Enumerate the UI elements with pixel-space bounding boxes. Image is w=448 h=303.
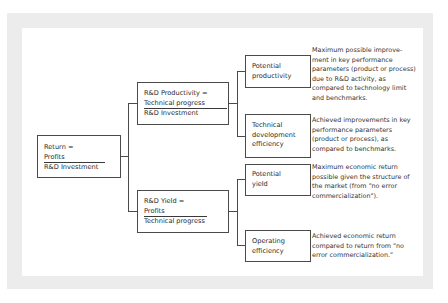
potential-productivity-box: Potential productivity [245,55,311,88]
leaf-label-line: productivity [252,72,304,82]
description-line: Achieved economic return [312,232,430,242]
leaf-label-line: efficiency [252,140,304,150]
connector [128,103,137,104]
technical-development-efficiency-description: Achieved improvements in key performance… [312,116,430,154]
rd-yield-denominator: Technical progress [144,217,222,227]
leaf-label-line: yield [252,180,304,190]
connector [237,136,245,137]
connector [128,211,137,212]
operating-efficiency-box: Operating efficiency [245,230,311,262]
description-line: and benchmarks. [312,94,430,104]
description-line: possible given the structure of [312,173,430,183]
rd-productivity-numerator: Technical progress [144,99,227,110]
description-line: Maximum possible improve- [312,46,430,56]
description-line: (product or process), as [312,135,430,145]
leaf-label-line: Operating [252,237,304,247]
description-line: commercialization"). [312,192,430,202]
description-line: error commercialization." [312,251,430,261]
description-line: Maximum economic return [312,163,430,173]
technical-development-efficiency-box: Technical development efficiency [245,114,311,158]
potential-yield-box: Potential yield [245,164,311,196]
return-numerator: Profits [44,153,105,164]
description-line: compared to return from "no [312,242,430,252]
potential-yield-description: Maximum economic return possible given t… [312,163,430,201]
rd-productivity-denominator: R&D Investment [144,109,222,119]
description-line: Achieved improvements in key [312,116,430,126]
rd-productivity-box: R&D Productivity = Technical progress R&… [137,82,229,125]
description-line: compared to benchmarks. [312,145,430,155]
return-box: Return = Profits R&D Investment [37,135,121,178]
description-line: ment in key performance [312,56,430,66]
return-denominator: R&D Investment [44,163,114,173]
description-line: compared to technology limit [312,84,430,94]
description-line: performance parameters [312,126,430,136]
description-line: the market (from "no error [312,182,430,192]
operating-efficiency-description: Achieved economic return compared to ret… [312,232,430,261]
leaf-label-line: Potential [252,170,304,180]
connector [237,179,245,180]
rd-yield-box: R&D Yield = Profits Technical progress [137,190,229,233]
leaf-label-line: development [252,131,304,141]
rd-productivity-title: R&D Productivity = [144,89,222,99]
leaf-label-line: Potential [252,62,304,72]
potential-productivity-description: Maximum possible improve- ment in key pe… [312,46,430,104]
connector [237,71,245,72]
rd-yield-title: R&D Yield = [144,197,222,207]
connector [237,71,238,137]
connector [237,179,238,246]
description-line: due to R&D activity, as [312,75,430,85]
leaf-label-line: Technical [252,121,304,131]
rd-yield-numerator: Profits [144,207,207,218]
leaf-label-line: efficiency [252,247,304,257]
return-title: Return = [44,143,114,153]
connector [128,103,129,212]
description-line: parameters (product or process) [312,65,430,75]
connector [237,245,245,246]
